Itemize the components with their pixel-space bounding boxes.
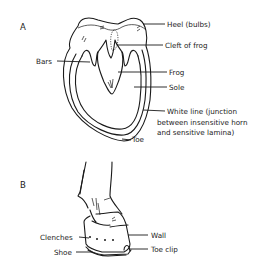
- hoof-diagram: A Heel (bulbs) Cleft of frog Bars: [0, 0, 261, 271]
- wall-band: [110, 225, 128, 227]
- coronary-band: [92, 221, 110, 225]
- leader-white-line: [143, 110, 165, 111]
- label-toe: Toe: [131, 135, 145, 144]
- hoof-outer-wall: [63, 18, 150, 141]
- label-white-line-3: and sensitive lamina): [157, 128, 234, 137]
- leader-bars: [57, 61, 90, 62]
- label-bars: Bars: [36, 57, 52, 66]
- label-sole: Sole: [169, 83, 185, 92]
- wall-marks: [112, 217, 116, 221]
- bar-right: [122, 50, 138, 66]
- leader-clenches: [79, 237, 89, 238]
- label-toe-clip: Toe clip: [150, 245, 178, 254]
- figure-b: B Clenches Shoe Wa: [20, 162, 178, 257]
- label-clenches: Clenches: [40, 233, 73, 242]
- figure-a: A Heel (bulbs) Cleft of frog Bars: [20, 18, 248, 144]
- label-heel: Heel (bulbs): [167, 20, 211, 29]
- sole-edge: [75, 56, 141, 129]
- heel-contour: [78, 25, 146, 31]
- leg-back-shade: [80, 170, 84, 194]
- label-white-line-2: between insensitive horn: [157, 118, 248, 127]
- frog-marks: [108, 79, 113, 88]
- white-line-ring: [69, 50, 146, 135]
- label-white-line-1: White line (junction: [167, 107, 237, 116]
- panel-label-b: B: [20, 180, 26, 190]
- clenches: [89, 236, 114, 241]
- panel-label-a: A: [20, 22, 26, 32]
- leg-back: [78, 162, 88, 208]
- bar-left: [82, 50, 98, 66]
- leader-toe: [122, 139, 131, 140]
- hoof-wall: [84, 212, 130, 252]
- label-shoe: Shoe: [54, 248, 73, 257]
- leg-front: [110, 162, 122, 214]
- label-wall: Wall: [151, 231, 166, 240]
- label-frog: Frog: [169, 68, 184, 77]
- label-cleft-of-frog: Cleft of frog: [165, 41, 207, 50]
- pastern: [90, 210, 96, 222]
